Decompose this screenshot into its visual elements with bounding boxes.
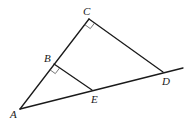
point-label-c: C <box>83 5 91 17</box>
point-label-b: B <box>44 52 51 64</box>
segment-cd <box>89 19 163 72</box>
point-label-e: E <box>90 93 98 105</box>
point-label-a: A <box>9 108 17 120</box>
geometry-diagram: C B A E D <box>0 0 192 127</box>
right-angle-mark-c <box>85 23 95 29</box>
segment-ad-extended <box>20 68 183 109</box>
point-label-d: D <box>161 75 170 87</box>
